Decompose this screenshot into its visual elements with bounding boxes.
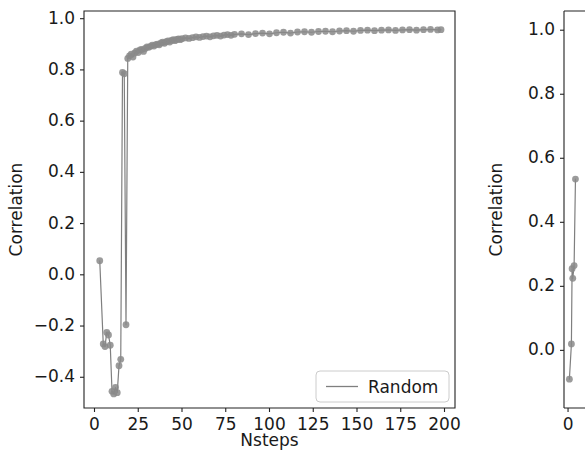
- data-point: [117, 356, 124, 363]
- x-tick-label: 200: [428, 414, 460, 434]
- y-axis-label: Correlation: [6, 163, 26, 257]
- data-point: [406, 26, 413, 33]
- data-point: [350, 28, 357, 35]
- x-tick-label: 150: [341, 414, 373, 434]
- y-tick-label: 0.0: [48, 264, 75, 284]
- data-point: [105, 332, 112, 339]
- data-point: [252, 30, 259, 37]
- data-point: [245, 31, 252, 38]
- data-point: [301, 28, 308, 35]
- chart-panel-left: −0.4−0.20.00.20.40.60.81.002550751001251…: [0, 0, 470, 466]
- y-tick-label: 1.0: [528, 19, 555, 39]
- y-tick-label: 0.8: [528, 83, 555, 103]
- data-point: [568, 341, 575, 348]
- x-tick-label: 25: [127, 414, 149, 434]
- data-point: [385, 27, 392, 34]
- data-point: [114, 389, 121, 396]
- y-tick-label: 1.0: [48, 8, 75, 28]
- x-tick-label: 0: [89, 414, 100, 434]
- y-axis-label: Correlation: [486, 163, 506, 257]
- data-point: [273, 29, 280, 36]
- y-tick-label: 0.2: [528, 275, 555, 295]
- data-point: [364, 27, 371, 34]
- x-tick-label: 175: [385, 414, 417, 434]
- data-point: [343, 27, 350, 34]
- data-point: [438, 26, 445, 33]
- data-point: [420, 26, 427, 33]
- data-layer: [96, 26, 444, 397]
- data-point: [315, 28, 322, 35]
- chart-legend[interactable]: Random: [316, 371, 449, 402]
- data-point: [357, 27, 364, 34]
- data-point: [121, 70, 128, 77]
- data-point: [427, 26, 434, 33]
- chart-panel-right: 0.00.20.40.60.81.00Correlation: [470, 0, 585, 466]
- y-tick-label: 0.4: [528, 211, 555, 231]
- y-tick-label: −0.2: [34, 315, 75, 335]
- data-point: [399, 27, 406, 34]
- data-point: [266, 30, 273, 37]
- data-point: [107, 342, 114, 349]
- data-point: [336, 28, 343, 35]
- y-tick-label: 0.6: [528, 147, 555, 167]
- data-point: [569, 275, 576, 282]
- data-point: [116, 362, 123, 369]
- data-line-random: [100, 29, 441, 393]
- data-point: [566, 376, 573, 383]
- x-tick-label: 125: [297, 414, 329, 434]
- data-layer: [566, 176, 579, 383]
- y-tick-label: 0.8: [48, 59, 75, 79]
- figure-canvas: −0.4−0.20.00.20.40.60.81.002550751001251…: [0, 0, 585, 466]
- data-point: [413, 27, 420, 34]
- chart-svg-left: −0.4−0.20.00.20.40.60.81.002550751001251…: [0, 0, 470, 466]
- chart-svg-right: 0.00.20.40.60.81.00Correlation: [470, 0, 585, 466]
- data-point: [308, 29, 315, 36]
- x-tick-label: 75: [215, 414, 237, 434]
- data-point: [231, 31, 238, 38]
- y-tick-label: 0.2: [48, 213, 75, 233]
- data-point: [322, 28, 329, 35]
- y-tick-label: 0.4: [48, 161, 75, 181]
- data-point: [123, 321, 130, 328]
- data-point: [572, 176, 579, 183]
- data-point: [371, 27, 378, 34]
- y-tick-label: 0.6: [48, 110, 75, 130]
- data-point: [571, 262, 578, 269]
- data-point: [287, 30, 294, 37]
- data-point: [329, 28, 336, 35]
- data-point: [392, 27, 399, 34]
- data-point: [378, 27, 385, 34]
- data-point: [96, 257, 103, 264]
- data-point: [280, 29, 287, 36]
- axis-spines: [84, 11, 455, 408]
- y-tick-label: −0.4: [34, 366, 75, 386]
- y-tick-label: 0.0: [528, 339, 555, 359]
- data-point: [259, 30, 266, 37]
- x-axis-label: Nsteps: [240, 430, 298, 450]
- data-point: [238, 30, 245, 37]
- legend-label: Random: [368, 377, 438, 397]
- x-tick-label: 0: [563, 414, 574, 434]
- x-tick-label: 50: [171, 414, 193, 434]
- data-point: [294, 29, 301, 36]
